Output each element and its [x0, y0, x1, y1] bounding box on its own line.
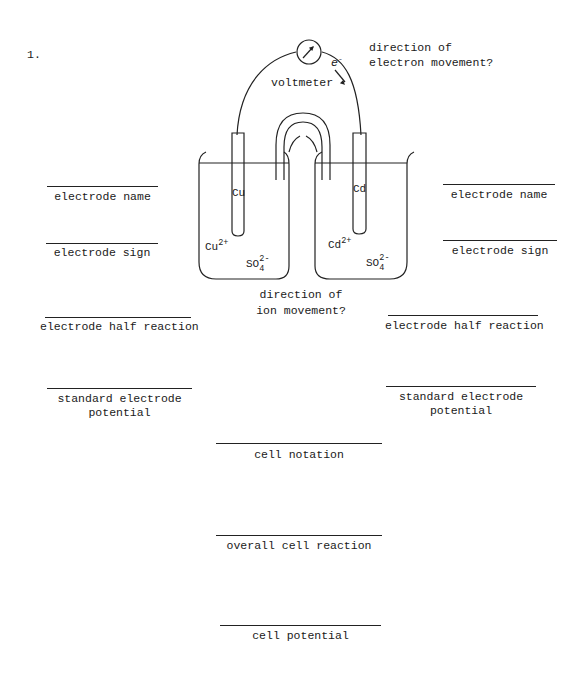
answer-line[interactable]: [386, 386, 536, 387]
left-half-reaction-label: electrode half reaction: [40, 318, 196, 335]
answer-line[interactable]: [216, 535, 382, 536]
electron-direction-question-line2: electron movement?: [369, 56, 493, 69]
ion-direction-question-line2: ion movement?: [256, 304, 346, 317]
answer-line[interactable]: [443, 240, 557, 241]
cell-notation-label: cell notation: [216, 446, 382, 463]
right-anion-label: SO42-: [366, 253, 390, 273]
overall-cell-reaction-label: overall cell reaction: [216, 537, 382, 554]
right-electrode-sign-label: electrode sign: [443, 242, 557, 259]
left-anion-label: SO42-: [246, 254, 270, 274]
answer-line[interactable]: [388, 315, 538, 316]
cd-electrode-label: Cd: [353, 183, 366, 195]
left-standard-potential-label-line2: potential: [47, 404, 192, 421]
voltmeter-label: voltmeter: [271, 76, 333, 89]
right-standard-potential-label-line2: potential: [386, 402, 536, 419]
wire-right: [322, 52, 361, 135]
answer-line[interactable]: [443, 184, 555, 185]
left-cation-label: Cu2+: [205, 238, 228, 253]
right-electrode-name-label: electrode name: [443, 186, 555, 203]
left-electrode-sign-label: electrode sign: [46, 244, 158, 261]
galvanic-cell-diagram: Cu Cd voltmeter e- direction of electron…: [0, 0, 578, 676]
electron-direction-question-line1: direction of: [369, 41, 452, 54]
right-cation-label: Cd2+: [328, 236, 351, 251]
electron-arrow-icon: [335, 70, 345, 82]
wire-left: [237, 52, 296, 135]
cu-electrode-label: Cu: [232, 187, 245, 199]
answer-line[interactable]: [216, 443, 382, 444]
answer-line[interactable]: [47, 388, 192, 389]
right-half-reaction-label: electrode half reaction: [385, 317, 541, 334]
answer-line[interactable]: [47, 186, 158, 187]
left-electrode-name-label: electrode name: [47, 188, 158, 205]
cell-potential-label: cell potential: [220, 627, 381, 644]
ion-direction-question-line1: direction of: [260, 288, 343, 301]
cu-electrode: [232, 133, 244, 236]
answer-line[interactable]: [220, 625, 381, 626]
electron-symbol: e-: [331, 54, 343, 69]
